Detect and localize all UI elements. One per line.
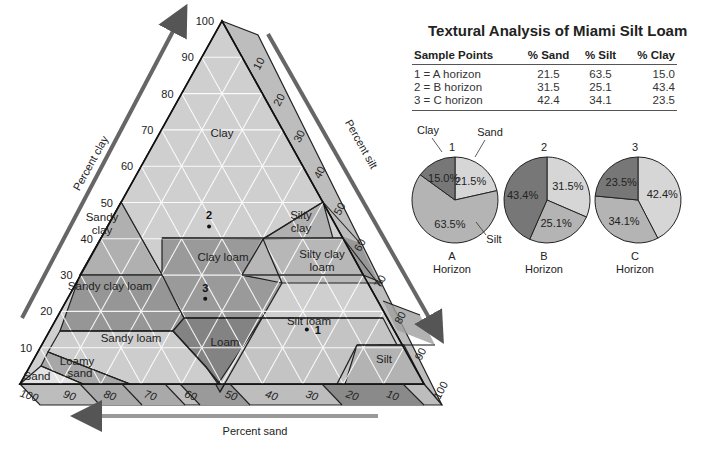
pie-slice-label: 34.1% [608, 215, 639, 227]
clay-tick-label: 70 [141, 124, 153, 136]
table-row: 2 = B horizon 31.5 25.1 43.4 [412, 81, 677, 94]
pie-chart-1: 21.5%63.5%15.0%1AHorizonClaySandSilt [412, 124, 503, 275]
percent-sand-axis-label: Percent sand [223, 425, 288, 437]
clay-tick-label: 80 [161, 88, 173, 100]
clay-tick-label: 40 [81, 233, 93, 245]
pie-horizon-letter: B [540, 250, 547, 262]
pie-slice-label: 63.5% [434, 218, 465, 230]
pie-horizon-letter: A [448, 250, 456, 262]
sample-point-dot [203, 297, 207, 301]
pie-horizon-label: Horizon [433, 263, 471, 275]
sample-point-dot [207, 224, 211, 228]
region-label-sandy-clay-1: Sandy [86, 211, 119, 223]
cell-sand: 21.5 [519, 65, 578, 82]
textural-analysis-table: Sample Points % Sand % Silt % Clay 1 = A… [412, 48, 677, 111]
pie-horizon-label: Horizon [525, 263, 563, 275]
region-label-silt: Silt [376, 353, 393, 365]
cell-sand: 31.5 [519, 81, 578, 94]
cell-clay: 15.0 [623, 65, 677, 82]
cell-sample: 3 = C horizon [412, 94, 519, 111]
region-label-sandy-clay-loam: Sandy clay loam [68, 280, 152, 292]
region-label-sandy-clay-2: clay [92, 224, 113, 236]
pie-number: 2 [541, 141, 547, 153]
pie-callout-silt: Silt [486, 233, 501, 245]
pie-slice-label: 42.4% [647, 188, 678, 200]
header-sample-points: Sample Points [412, 48, 519, 65]
pie-slice-label: 21.5% [455, 175, 486, 187]
clay-tick-label: 30 [60, 269, 72, 281]
region-label-silty-clay-loam-2: loam [310, 261, 335, 273]
region-label-silty-clay-loam-1: Silty clay [299, 248, 345, 260]
silt-tick-label: 100 [431, 379, 450, 401]
clay-tick-label: 50 [101, 197, 113, 209]
clay-tick-label: 100 [196, 15, 214, 27]
region-label-loamy-sand-1: Loamy [60, 355, 95, 367]
region-label-silty-clay-1: Silty [290, 209, 312, 221]
region-label-sandy-loam: Sandy loam [101, 332, 162, 344]
cell-clay: 43.4 [623, 81, 677, 94]
clay-tick-label: 90 [182, 51, 194, 63]
region-label-sand: Sand [24, 370, 51, 382]
table-row: 3 = C horizon 42.4 34.1 23.5 [412, 94, 677, 111]
region-label-silt-loam: Silt loam [287, 315, 331, 327]
region-label-clay-loam: Clay loam [197, 251, 248, 263]
pie-callout-clay: Clay [417, 124, 440, 136]
header-sand: % Sand [519, 48, 578, 65]
pie-chart-3: 42.4%34.1%23.5%3CHorizon [595, 141, 681, 275]
sample-point-label: 2 [206, 209, 212, 221]
pie-slice-label: 15.0% [428, 172, 459, 184]
cell-silt: 25.1 [578, 81, 623, 94]
region-label-loam: Loam [211, 336, 240, 348]
pie-horizon-label: Horizon [616, 263, 654, 275]
cell-clay: 23.5 [623, 94, 677, 111]
pie-number: 3 [632, 141, 638, 153]
pie-horizon-letter: C [631, 250, 639, 262]
pie-callout-sand: Sand [477, 126, 503, 138]
cell-sand: 42.4 [519, 94, 578, 111]
pie-slice-label: 31.5% [552, 180, 583, 192]
clay-tick-label: 10 [20, 342, 32, 354]
cell-silt: 34.1 [578, 94, 623, 111]
pie-number: 1 [449, 141, 455, 153]
cell-sample: 2 = B horizon [412, 81, 519, 94]
pie-slice-label: 25.1% [541, 217, 572, 229]
percent-silt-axis-label: Percent silt [343, 117, 380, 170]
region-label-loamy-sand-2: sand [68, 367, 93, 379]
header-clay: % Clay [623, 48, 677, 65]
region-label-silty-clay-2: clay [291, 222, 312, 234]
table-title: Textural Analysis of Miami Silt Loam [428, 22, 687, 39]
sample-point-dot [305, 328, 309, 332]
clay-tick-label: 20 [40, 305, 52, 317]
cell-silt: 63.5 [578, 65, 623, 82]
header-silt: % Silt [578, 48, 623, 65]
cell-sample: 1 = A horizon [412, 65, 519, 82]
table-header-row: Sample Points % Sand % Silt % Clay [412, 48, 677, 65]
pie-slice-label: 23.5% [606, 176, 637, 188]
clay-tick-label: 60 [121, 160, 133, 172]
table-row: 1 = A horizon 21.5 63.5 15.0 [412, 65, 677, 82]
pie-slice-label: 43.4% [507, 189, 538, 201]
sample-point-label: 3 [202, 282, 208, 294]
region-label-clay: Clay [210, 127, 233, 139]
pie-chart-2: 31.5%25.1%43.4%2BHorizon [504, 141, 590, 275]
